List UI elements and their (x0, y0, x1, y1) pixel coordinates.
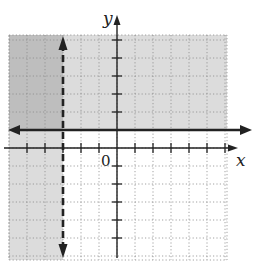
y-axis-label: y (102, 8, 113, 28)
overlap-region (9, 35, 63, 130)
origin-label: 0 (101, 152, 111, 170)
x-axis-label: x (236, 150, 246, 170)
y-axis-arrow-icon (114, 15, 121, 25)
right-arrow-icon (240, 125, 252, 135)
inequality-graph: y x 0 (0, 0, 264, 264)
